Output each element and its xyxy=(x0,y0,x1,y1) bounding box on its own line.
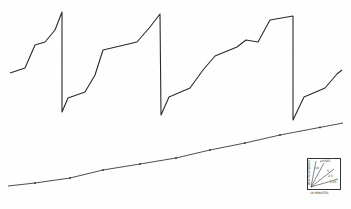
tick-mark xyxy=(319,126,321,128)
upper-sawtooth-trace xyxy=(10,12,342,120)
legend-slope-2-5: 2.5 xyxy=(328,174,333,178)
chart-canvas: BED RESPONSES μV/SEC 10 5 2.5 1.25 10 MI… xyxy=(0,0,351,209)
recording-plot xyxy=(0,0,351,209)
legend-slope-1-25: 1.25 xyxy=(330,180,337,184)
lower-baseline-trace xyxy=(8,123,343,186)
tick-mark xyxy=(139,163,141,165)
legend-unit-label: μV/SEC xyxy=(320,159,331,163)
legend-y-label: BED RESPONSES xyxy=(307,160,311,185)
legend-slope-5: 5 xyxy=(327,169,329,173)
slope-fan-icon xyxy=(308,159,340,189)
tick-mark xyxy=(244,142,246,144)
legend-x-label: 10 MINUTES xyxy=(310,191,328,195)
tick-mark xyxy=(209,149,211,151)
scale-legend-inset: BED RESPONSES μV/SEC 10 5 2.5 1.25 xyxy=(307,158,341,190)
tick-mark xyxy=(279,134,281,136)
tick-mark xyxy=(175,157,177,159)
tick-mark xyxy=(69,177,71,179)
tick-mark xyxy=(102,169,104,171)
legend-slope-10: 10 xyxy=(315,166,319,170)
tick-mark xyxy=(34,182,36,184)
